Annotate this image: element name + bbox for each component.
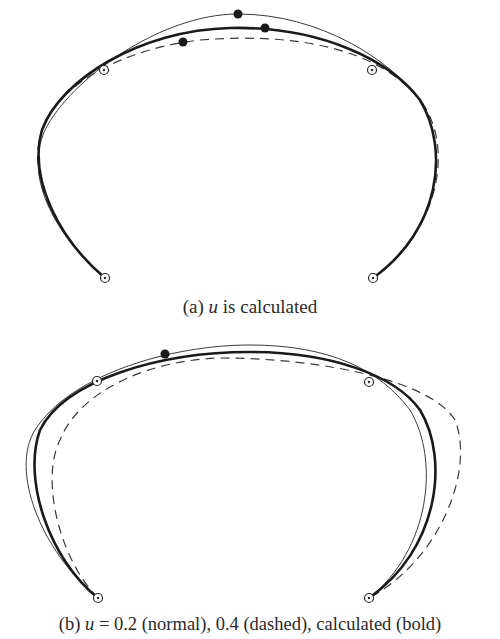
caption-b-prefix: (b) xyxy=(59,614,85,634)
panel-a-curve-normal xyxy=(38,14,436,278)
panel-b-curve-dashed xyxy=(52,358,460,598)
caption-panel-a: (a) u is calculated xyxy=(0,296,500,318)
panel-a-control-point-filled xyxy=(261,24,270,33)
caption-panel-b: (b) u = 0.2 (normal), 0.4 (dashed), calc… xyxy=(0,614,500,635)
spline-figure xyxy=(0,0,500,639)
panel-a-data-point-center xyxy=(372,277,374,279)
panel-b-curve-bold xyxy=(35,352,436,598)
caption-a-prefix: (a) xyxy=(183,296,209,317)
panel-b-data-point-center xyxy=(368,381,370,383)
panel-b-data-point-center xyxy=(97,597,99,599)
panel-a-data-point-center xyxy=(104,277,106,279)
caption-b-text: = 0.2 (normal), 0.4 (dashed), calculated… xyxy=(94,614,441,634)
caption-a-variable: u xyxy=(209,296,219,317)
panel-b-curves xyxy=(26,345,460,603)
panel-a-control-point-filled xyxy=(234,10,243,19)
panel-a-control-point-filled xyxy=(179,38,188,47)
panel-a-data-point-center xyxy=(103,69,105,71)
panel-b-data-point-center xyxy=(368,597,370,599)
caption-a-text: is calculated xyxy=(218,296,317,317)
caption-b-variable: u xyxy=(85,614,94,634)
panel-b-control-point-filled xyxy=(161,350,170,359)
panel-a-curves xyxy=(38,10,439,283)
panel-b-data-point-center xyxy=(96,380,98,382)
panel-a-data-point-center xyxy=(371,69,373,71)
panel-a-curve-dashed xyxy=(38,38,439,278)
